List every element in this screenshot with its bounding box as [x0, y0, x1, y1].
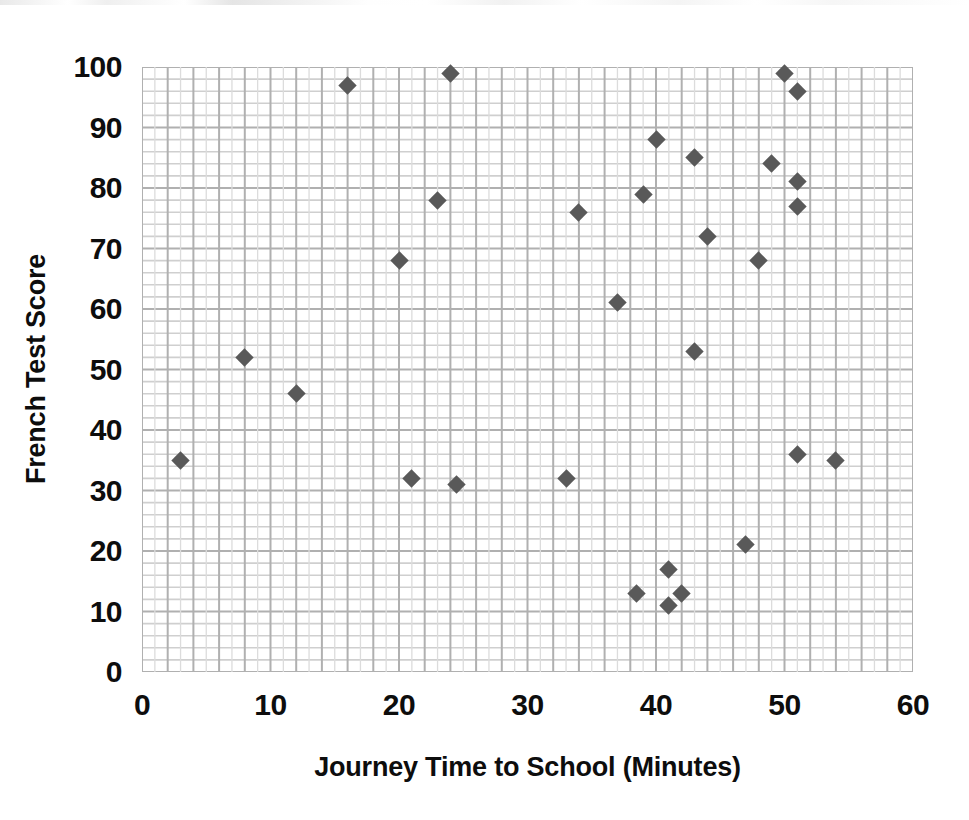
x-tick-label: 60: [868, 690, 958, 720]
x-tick-label: 10: [226, 690, 316, 720]
data-point: [737, 536, 755, 554]
data-point: [441, 64, 459, 82]
data-point: [608, 294, 626, 312]
x-tick-label: 20: [354, 690, 444, 720]
scan-artifact-strip: [0, 0, 969, 5]
y-tick-label: 100: [12, 52, 122, 82]
data-point: [287, 384, 305, 402]
scatter-chart: 0102030405060708090100 0102030405060 Jou…: [0, 0, 969, 820]
y-tick-label: 90: [12, 113, 122, 143]
x-axis-title: Journey Time to School (Minutes): [142, 752, 913, 783]
plot-area: [142, 67, 913, 672]
y-tick-label: 10: [12, 597, 122, 627]
data-point: [647, 130, 665, 148]
data-point: [338, 76, 356, 94]
x-axis-ticks: 0102030405060: [142, 690, 913, 734]
data-point: [403, 469, 421, 487]
y-axis-ticks: 0102030405060708090100: [0, 67, 122, 672]
data-point: [634, 185, 652, 203]
data-point: [685, 149, 703, 167]
y-axis-title: French Test Score: [21, 159, 52, 579]
data-point: [775, 64, 793, 82]
data-point: [685, 342, 703, 360]
data-point: [557, 469, 575, 487]
data-point: [827, 451, 845, 469]
data-point: [628, 584, 646, 602]
data-point: [428, 191, 446, 209]
x-tick-label: 30: [483, 690, 573, 720]
x-tick-label: 50: [740, 690, 830, 720]
data-point: [672, 584, 690, 602]
y-tick-label: 0: [12, 657, 122, 687]
data-point: [236, 348, 254, 366]
x-tick-label: 40: [611, 690, 701, 720]
data-point: [448, 475, 466, 493]
data-point: [788, 197, 806, 215]
data-point: [762, 155, 780, 173]
data-point: [660, 560, 678, 578]
data-point: [660, 596, 678, 614]
data-point: [788, 173, 806, 191]
data-point: [750, 251, 768, 269]
data-point: [570, 203, 588, 221]
data-point: [788, 82, 806, 100]
data-point: [698, 227, 716, 245]
data-point: [390, 251, 408, 269]
data-point: [788, 445, 806, 463]
x-tick-label: 0: [97, 690, 187, 720]
data-point: [171, 451, 189, 469]
data-points-layer: [142, 67, 913, 672]
